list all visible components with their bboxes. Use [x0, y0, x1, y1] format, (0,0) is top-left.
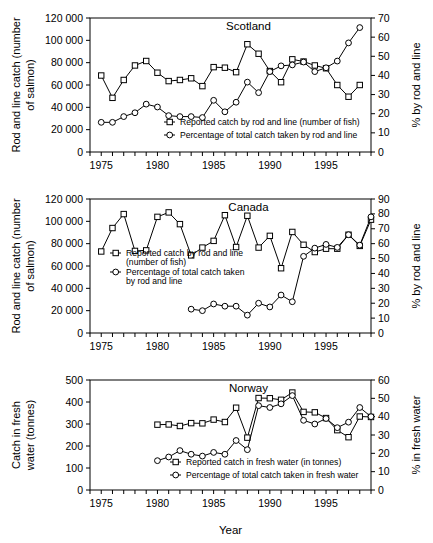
x-tick-label: 1980: [146, 340, 170, 352]
y-tick-label-left: 300: [65, 418, 83, 430]
y-tick-label-left: 400: [65, 396, 83, 408]
panel-title: Canada: [228, 201, 269, 213]
y-tick-label-right: 30: [378, 282, 390, 294]
y-tick-label-left: 120 000: [45, 12, 83, 24]
x-tick-label: 1995: [314, 340, 338, 352]
y-tick-label-left: 40 000: [51, 282, 83, 294]
x-tick-label: 1985: [202, 340, 226, 352]
y-tick-label-left: 0: [77, 327, 83, 339]
y-tick-label-left: 20 000: [51, 123, 83, 135]
x-tick-label: 1980: [146, 159, 170, 171]
x-tick-label: 1980: [146, 497, 170, 509]
y-tick-label-right: 50: [378, 50, 390, 62]
y-axis-title-left: of salmon): [24, 59, 36, 110]
x-tick-label: 1975: [90, 159, 114, 171]
series-catch: [155, 390, 374, 441]
y-tick-label-left: 100: [65, 462, 83, 474]
legend-label: by rod and line: [126, 276, 183, 286]
y-tick-label-right: 40: [378, 410, 390, 422]
y-tick-label-right: 10: [378, 312, 390, 324]
y-tick-label-right: 10: [378, 465, 390, 477]
y-tick-label-left: 80 000: [51, 237, 83, 249]
y-tick-label-left: 0: [77, 146, 83, 158]
y-tick-label-right: 60: [378, 237, 390, 249]
y-tick-label-right: 50: [378, 392, 390, 404]
y-tick-label-right: 30: [378, 429, 390, 441]
series-percentage: [98, 25, 362, 126]
x-tick-label: 1985: [202, 497, 226, 509]
y-tick-label-right: 20: [378, 297, 390, 309]
y-tick-label-right: 0: [378, 146, 384, 158]
y-tick-label-right: 60: [378, 374, 390, 386]
y-tick-label-left: 500: [65, 374, 83, 386]
legend: Reported catch in fresh water (in tonnes…: [170, 457, 359, 480]
legend-label: (number of fish): [126, 257, 186, 267]
y-tick-label-left: 100 000: [45, 34, 83, 46]
panel-title: Scotland: [226, 20, 271, 32]
panel-title: Norway: [229, 382, 268, 394]
y-tick-label-right: 30: [378, 88, 390, 100]
x-tick-label: 1990: [258, 340, 282, 352]
y-tick-label-left: 200: [65, 440, 83, 452]
y-axis-title-left: Rod and line catch (number: [10, 17, 22, 152]
y-tick-label-right: 40: [378, 267, 390, 279]
chart-panel-scotland: 020 00040 00060 00080 000100 000120 0000…: [0, 0, 433, 182]
y-tick-label-left: 60 000: [51, 260, 83, 272]
y-tick-label-left: 80 000: [51, 56, 83, 68]
y-tick-label-right: 20: [378, 447, 390, 459]
legend-label: Reported catch by rod and line (number o…: [180, 117, 360, 127]
y-tick-label-right: 70: [378, 222, 390, 234]
x-tick-label: 1985: [202, 159, 226, 171]
y-tick-label-right: 20: [378, 107, 390, 119]
series-percentage: [155, 393, 374, 464]
x-axis-title: Year: [219, 524, 242, 536]
x-tick-label: 1975: [90, 497, 114, 509]
y-axis-title-right: % in fresh water: [410, 395, 422, 474]
legend: Reported catch by rod and line(number of…: [110, 248, 245, 286]
x-tick-label: 1995: [314, 159, 338, 171]
y-tick-label-right: 70: [378, 12, 390, 24]
y-axis-title-left: water (tonnes): [24, 400, 36, 471]
y-tick-label-right: 10: [378, 126, 390, 138]
x-tick-label: 1990: [258, 497, 282, 509]
salmon-catch-figure: 020 00040 00060 00080 000100 000120 0000…: [0, 0, 433, 543]
y-tick-label-right: 90: [378, 193, 390, 205]
legend: Reported catch by rod and line (number o…: [164, 117, 360, 140]
y-tick-label-right: 40: [378, 69, 390, 81]
y-axis-title-right: % by rod and line: [410, 224, 422, 309]
y-axis-title-left: Catch in fresh: [10, 401, 22, 469]
legend-label: Reported catch in fresh water (in tonnes…: [186, 457, 341, 467]
x-tick-label: 1975: [90, 340, 114, 352]
y-tick-label-left: 100 000: [45, 215, 83, 227]
y-tick-label-right: 0: [378, 484, 384, 496]
y-tick-label-right: 60: [378, 31, 390, 43]
y-tick-label-left: 120 000: [45, 193, 83, 205]
y-axis-title-left: of salmon): [24, 240, 36, 291]
y-axis-title-right: % by rod and line: [410, 43, 422, 128]
chart-panel-norway: 0100200300400500010203040506019751980198…: [0, 362, 433, 543]
y-tick-label-left: 0: [77, 484, 83, 496]
chart-panel-canada: 020 00040 00060 00080 000100 000120 0000…: [0, 181, 433, 363]
legend-label: Percentage of total catch taken in fresh…: [186, 470, 359, 480]
x-tick-label: 1995: [314, 497, 338, 509]
legend-label: Percentage of total catch taken by rod a…: [180, 130, 357, 140]
y-tick-label-right: 0: [378, 327, 384, 339]
y-tick-label-right: 50: [378, 252, 390, 264]
x-tick-label: 1990: [258, 159, 282, 171]
series-catch: [99, 42, 363, 101]
y-tick-label-left: 60 000: [51, 79, 83, 91]
y-tick-label-left: 20 000: [51, 304, 83, 316]
y-axis-title-left: Rod and line catch (number: [10, 198, 22, 333]
y-tick-label-right: 80: [378, 207, 390, 219]
y-tick-label-left: 40 000: [51, 101, 83, 113]
